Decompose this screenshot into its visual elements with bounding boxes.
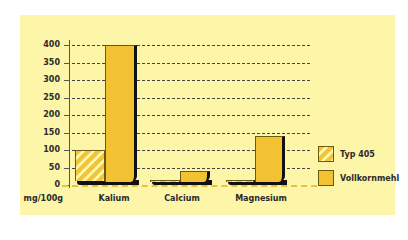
y-tick-label: 150 bbox=[30, 129, 60, 137]
y-tick-label: 350 bbox=[30, 59, 60, 67]
y-tick-label: 100 bbox=[30, 146, 60, 154]
x-label-magnesium: Magnesium bbox=[226, 194, 296, 203]
y-tick-mark bbox=[64, 80, 69, 81]
y-axis-unit-label: mg/100g bbox=[3, 195, 63, 203]
legend-label: Typ 405 bbox=[340, 150, 375, 159]
bar-vollkornmehl-calcium bbox=[180, 171, 210, 182]
legend-label: Vollkornmehl bbox=[340, 174, 399, 183]
y-tick-label: 300 bbox=[30, 76, 60, 84]
y-tick-mark bbox=[64, 150, 69, 151]
y-tick-mark bbox=[64, 133, 69, 134]
bar-vollkornmehl-kalium bbox=[105, 45, 137, 182]
bar-vollkornmehl-magnesium bbox=[255, 136, 285, 182]
y-tick-mark bbox=[64, 63, 69, 64]
y-tick-mark bbox=[64, 45, 69, 46]
y-tick-label: 250 bbox=[30, 94, 60, 102]
y-tick-label: 400 bbox=[30, 41, 60, 49]
y-tick-mark bbox=[64, 98, 69, 99]
y-tick-label: 0 bbox=[30, 181, 60, 189]
legend-item-typ405: Typ 405 bbox=[318, 146, 375, 162]
y-axis-line bbox=[69, 40, 70, 188]
x-label-kalium: Kalium bbox=[84, 194, 144, 203]
baseline bbox=[62, 185, 317, 187]
hatched-swatch-icon bbox=[318, 146, 334, 162]
y-tick-label: 200 bbox=[30, 111, 60, 119]
y-tick-label: 50 bbox=[30, 164, 60, 172]
legend-item-vollkornmehl: Vollkornmehl bbox=[318, 170, 399, 186]
solid-swatch-icon bbox=[318, 170, 334, 186]
bar-typ405-kalium bbox=[75, 150, 105, 181]
y-tick-mark bbox=[64, 115, 69, 116]
bar-typ405-calcium bbox=[150, 180, 180, 182]
x-label-calcium: Calcium bbox=[152, 194, 212, 203]
bar-typ405-magnesium bbox=[226, 180, 254, 182]
y-tick-mark bbox=[64, 168, 69, 169]
